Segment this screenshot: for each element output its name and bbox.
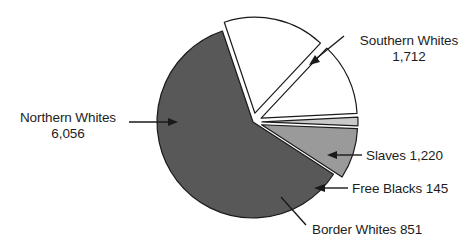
pie-label-slaves-text: Slaves 1,220 bbox=[366, 148, 443, 164]
pie-label-southern-whites: Southern Whites 1,712 bbox=[348, 33, 470, 65]
pie-slice-free-blacks[interactable] bbox=[262, 117, 358, 126]
pie-label-northern-whites-name: Northern Whites bbox=[8, 110, 128, 126]
pie-label-free-blacks: Free Blacks 145 bbox=[352, 181, 448, 197]
pie-label-southern-whites-value: 1,712 bbox=[348, 49, 470, 65]
pie-label-southern-whites-name: Southern Whites bbox=[348, 33, 470, 49]
pie-label-free-blacks-text: Free Blacks 145 bbox=[352, 181, 448, 197]
pie-label-northern-whites: Northern Whites 6,056 bbox=[8, 110, 128, 142]
pie-label-border-whites-text: Border Whites 851 bbox=[312, 222, 422, 238]
pie-label-slaves: Slaves 1,220 bbox=[366, 148, 443, 164]
pie-label-northern-whites-value: 6,056 bbox=[8, 126, 128, 142]
pie-label-border-whites: Border Whites 851 bbox=[312, 222, 422, 238]
pie-chart-figure: Northern Whites 6,056 Southern Whites 1,… bbox=[0, 0, 473, 249]
leader-line-northern-whites bbox=[129, 118, 178, 126]
